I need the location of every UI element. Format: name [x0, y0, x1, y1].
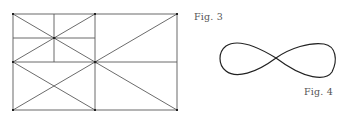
fig3-right-diag-down — [95, 62, 177, 110]
fig3-right-diag-up — [95, 14, 177, 62]
fig3-label: Fig. 3 — [194, 11, 223, 22]
figure-canvas — [0, 0, 344, 116]
fig4-lemniscate — [220, 43, 335, 77]
fig4-label: Fig. 4 — [304, 86, 333, 97]
